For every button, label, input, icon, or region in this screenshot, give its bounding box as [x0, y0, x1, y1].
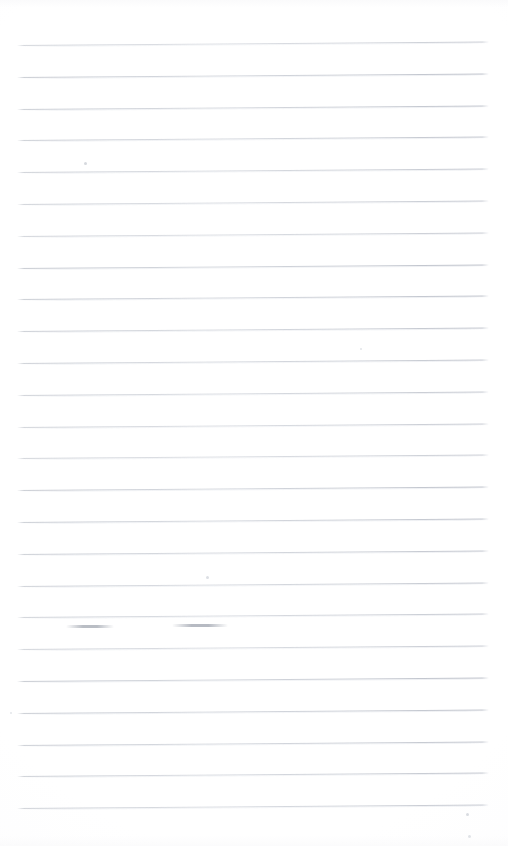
ruled-line	[17, 201, 489, 205]
scan-smudge	[66, 625, 114, 628]
ruled-line	[17, 328, 489, 332]
scan-smudge	[172, 624, 228, 627]
page-edge-shading	[0, 0, 508, 8]
ruled-line	[17, 264, 489, 268]
scan-speck	[468, 835, 471, 838]
ruled-line	[17, 550, 489, 554]
ruled-line	[17, 487, 489, 491]
ruled-line	[17, 232, 489, 236]
ruled-line	[17, 709, 489, 713]
ruled-line	[17, 391, 489, 395]
ruled-line	[17, 773, 489, 777]
ruled-line	[17, 423, 489, 427]
ruled-line	[17, 582, 489, 586]
ruled-line	[17, 519, 489, 523]
scan-speck	[84, 162, 87, 165]
ruled-line	[17, 455, 489, 459]
scan-speck	[206, 576, 209, 579]
ruled-line	[17, 805, 489, 809]
scan-speck	[360, 348, 362, 350]
ruled-line	[17, 73, 489, 77]
ruled-line	[17, 360, 489, 364]
ruled-line	[17, 296, 489, 300]
scan-speck	[10, 712, 12, 714]
ruled-line	[17, 741, 489, 745]
ruled-line	[17, 42, 489, 46]
scanned-page	[0, 0, 508, 846]
ruled-line	[17, 105, 489, 109]
ruled-line	[17, 614, 489, 618]
ruled-line	[17, 646, 489, 650]
scan-speck	[466, 813, 469, 816]
page-edge-shading-bottom	[0, 836, 508, 846]
ruled-line	[17, 137, 489, 141]
ruled-line	[17, 678, 489, 682]
ruled-line	[17, 169, 489, 173]
